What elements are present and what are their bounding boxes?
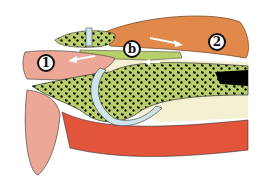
label-b: b	[123, 40, 141, 58]
cartilage-plate	[86, 28, 92, 46]
label-1: 1	[37, 54, 55, 72]
finger-pad	[25, 90, 60, 175]
upper-bone-fragment	[55, 31, 115, 48]
label-2: 2	[208, 33, 226, 51]
anatomy-illustration	[0, 0, 265, 189]
bone-marrow	[215, 70, 248, 86]
